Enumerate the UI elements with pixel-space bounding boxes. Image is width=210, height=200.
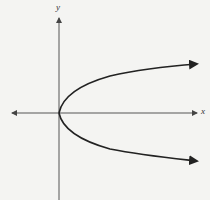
x-axis-label: x — [201, 106, 205, 116]
parabola-lower-branch — [59, 113, 197, 161]
graph-canvas: y x — [0, 0, 210, 200]
parabola-upper-branch — [59, 64, 197, 113]
y-axis-label: y — [56, 2, 60, 12]
parabola-graph — [0, 0, 210, 200]
